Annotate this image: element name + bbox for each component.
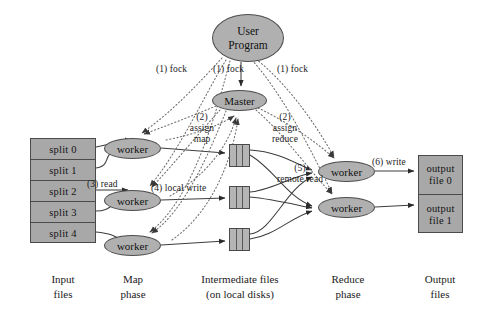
caption-output-line2: files <box>400 287 480 302</box>
map-worker-0-label: worker <box>117 143 148 155</box>
edge-group-write <box>375 171 414 207</box>
map-worker-2: worker <box>104 235 161 256</box>
caption-output-line1: Output <box>400 272 480 287</box>
output-file-1-line1: output <box>426 203 454 215</box>
intermediate-partition-b <box>237 187 244 208</box>
label-assign-map-line1: assign <box>179 123 225 134</box>
caption-output-files: Output files <box>400 272 480 302</box>
input-splits-stack: split 0 split 1 split 2 split 3 split 4 <box>30 138 96 243</box>
caption-map-line1: Map <box>90 272 176 287</box>
caption-map-phase: Map phase <box>90 272 176 302</box>
label-write: (6) write <box>372 157 406 168</box>
input-split-1: split 1 <box>31 160 95 181</box>
intermediate-partition-c <box>243 187 249 208</box>
output-file-1-line2: file 1 <box>429 215 452 227</box>
input-split-0: split 0 <box>31 139 95 160</box>
input-split-4: split 4 <box>31 223 95 244</box>
label-assign-reduce-num: (2) <box>258 112 312 123</box>
map-worker-2-label: worker <box>117 240 148 252</box>
intermediate-file-box-0 <box>229 144 250 167</box>
label-assign-reduce-line2: reduce <box>258 134 312 145</box>
caption-intermediate-line2: (on local disks) <box>182 287 298 302</box>
master-label: Master <box>224 95 255 107</box>
user-program-node: User Program <box>212 14 284 62</box>
label-assign-map-line2: map <box>179 134 225 145</box>
mapreduce-execution-overview-diagram: split 0 split 1 split 2 split 3 split 4 … <box>0 0 481 319</box>
intermediate-file-box-1 <box>229 186 250 209</box>
label-assign-reduce: (2) assign reduce <box>258 112 312 145</box>
map-worker-0: worker <box>104 138 161 159</box>
intermediate-file-box-2 <box>229 228 250 251</box>
label-remote-read-line1: remote read <box>264 174 336 185</box>
caption-reduce-line2: phase <box>306 287 390 302</box>
edge-group-local-write <box>161 148 225 245</box>
label-assign-map-num: (2) <box>179 112 225 123</box>
reduce-worker-1: worker <box>318 197 375 218</box>
label-read: (3) read <box>87 179 118 190</box>
input-split-3: split 3 <box>31 202 95 223</box>
input-split-2: split 2 <box>31 181 95 202</box>
reduce-worker-1-label: worker <box>331 202 362 214</box>
intermediate-partition-a <box>230 145 237 166</box>
label-assign-reduce-line1: assign <box>258 123 312 134</box>
output-file-0-line1: output <box>426 163 454 175</box>
master-node: Master <box>212 90 267 111</box>
user-program-label-line2: Program <box>228 38 268 52</box>
label-fork-left: (1) fock <box>156 64 187 75</box>
output-file-1: output file 1 <box>419 195 462 234</box>
label-fork-right: (1) fock <box>277 64 308 75</box>
user-program-label-line1: User <box>237 24 259 38</box>
label-remote-read-num: (5) <box>264 163 336 174</box>
caption-reduce-line1: Reduce <box>306 272 390 287</box>
caption-intermediate-files: Intermediate files (on local disks) <box>182 272 298 302</box>
caption-reduce-phase: Reduce phase <box>306 272 390 302</box>
intermediate-partition-c <box>243 229 249 250</box>
intermediate-partition-a <box>230 229 237 250</box>
label-local-write: (4) local write <box>151 183 206 194</box>
label-fork-center: (1) fock <box>213 64 244 75</box>
output-files-stack: output file 0 output file 1 <box>418 155 463 233</box>
intermediate-partition-a <box>230 187 237 208</box>
caption-intermediate-line1: Intermediate files <box>182 272 298 287</box>
intermediate-partition-b <box>237 145 244 166</box>
map-worker-1-label: worker <box>117 195 148 207</box>
output-file-0: output file 0 <box>419 156 462 195</box>
label-remote-read: (5) remote read <box>264 163 336 185</box>
output-file-0-line2: file 0 <box>429 175 452 187</box>
label-assign-map: (2) assign map <box>179 112 225 145</box>
intermediate-partition-b <box>237 229 244 250</box>
caption-map-line2: phase <box>90 287 176 302</box>
intermediate-partition-c <box>243 145 249 166</box>
